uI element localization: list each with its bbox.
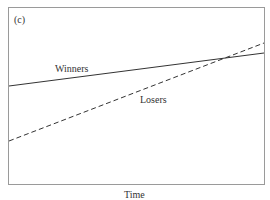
- winners-label: Winners: [55, 63, 89, 74]
- losers-line: [9, 43, 264, 141]
- losers-label: Losers: [140, 94, 167, 105]
- panel-label: (c): [14, 14, 25, 26]
- chart: (c) Winners Losers Time: [0, 0, 270, 200]
- plot-frame: [9, 8, 265, 185]
- x-axis-label: Time: [124, 189, 145, 200]
